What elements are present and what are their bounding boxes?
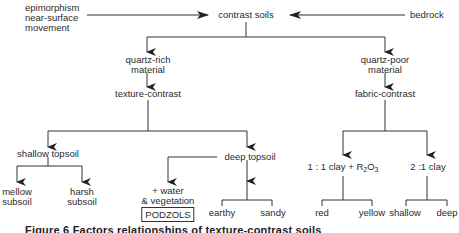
figure-caption: Figure 6 Factors relationships of textur… (25, 224, 322, 233)
node-deep: deep (436, 208, 457, 218)
label-subsoil: subsoil (2, 197, 32, 207)
subscript-3: 3 (375, 166, 379, 173)
node-shallow: shallow (389, 208, 421, 218)
node-deep-topsoil: deep topsoil (224, 152, 275, 162)
node-red: red (315, 208, 329, 218)
label-1-1-clay: 1 : 1 clay + R (308, 161, 364, 172)
node-yellow: yellow (359, 208, 385, 218)
node-earthy: earthy (209, 208, 235, 218)
node-bedrock: bedrock (410, 10, 444, 20)
node-harsh-subsoil: harsh subsoil (67, 187, 97, 207)
node-podzols-box: PODZOLS (141, 207, 194, 222)
node-quartz-poor-material: quartz-poor material (361, 55, 410, 75)
input-factors-left: epimorphism near-surface movement (25, 3, 79, 33)
node-fabric-contrast: fabric-contrast (355, 89, 415, 99)
node-2-1-clay: 2 :1 clay (410, 162, 445, 172)
node-sandy: sandy (260, 208, 285, 218)
label-movement: movement (25, 23, 79, 33)
node-mellow-subsoil: mellow subsoil (2, 187, 32, 207)
node-texture-contrast: texture-contrast (115, 89, 181, 99)
label-o: O (367, 161, 374, 172)
node-shallow-topsoil: shallow topsoil (17, 149, 79, 159)
label-subsoil: subsoil (67, 197, 97, 207)
node-contrast-soils: contrast soils (218, 10, 273, 20)
node-quartz-rich-material: quartz-rich material (126, 55, 171, 75)
node-1-1-clay-r2o3: 1 : 1 clay + R2O3 (308, 162, 379, 175)
label-material: material (361, 65, 410, 75)
label-material: material (126, 65, 171, 75)
label-and-vegetation: & vegetation (142, 196, 195, 206)
node-water-vegetation: + water & vegetation (142, 186, 195, 206)
